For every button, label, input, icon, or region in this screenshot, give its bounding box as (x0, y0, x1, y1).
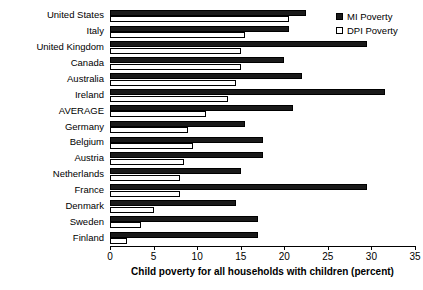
bar-mi-poverty (110, 232, 258, 238)
bar-group (110, 119, 415, 135)
bar-group (110, 183, 415, 199)
bar-dpi-poverty (110, 32, 245, 38)
category-label: Italy (0, 26, 104, 36)
bar-mi-poverty (110, 105, 293, 111)
bar-mi-poverty (110, 168, 241, 174)
bar-dpi-poverty (110, 96, 228, 102)
x-tick-mark (110, 246, 111, 250)
x-tick-mark (197, 246, 198, 250)
x-tick-label: 25 (313, 251, 343, 262)
category-label: Canada (0, 58, 104, 68)
bar-dpi-poverty (110, 222, 141, 228)
x-tick-mark (371, 246, 372, 250)
bar-group (110, 56, 415, 72)
x-tick-label: 15 (226, 251, 256, 262)
bar-group (110, 167, 415, 183)
bar-dpi-poverty (110, 127, 188, 133)
bar-group (110, 71, 415, 87)
bar-group (110, 87, 415, 103)
legend-label: MI Poverty (347, 11, 392, 22)
bar-mi-poverty (110, 152, 263, 158)
x-tick-mark (154, 246, 155, 250)
bar-dpi-poverty (110, 159, 184, 165)
x-tick-label: 30 (356, 251, 386, 262)
bar-group (110, 151, 415, 167)
bar-mi-poverty (110, 200, 236, 206)
bar-dpi-poverty (110, 207, 154, 213)
category-label: Austria (0, 153, 104, 163)
bar-dpi-poverty (110, 111, 206, 117)
category-label: Belgium (0, 137, 104, 147)
category-label: Germany (0, 122, 104, 132)
bar-mi-poverty (110, 73, 302, 79)
bar-mi-poverty (110, 57, 284, 63)
category-label: United States (0, 10, 104, 20)
bar-dpi-poverty (110, 80, 236, 86)
bar-chart: United StatesItalyUnited KingdomCanadaAu… (0, 0, 423, 290)
x-axis-title: Child poverty for all households with ch… (110, 266, 415, 277)
x-tick-mark (241, 246, 242, 250)
x-tick-mark (415, 246, 416, 250)
category-label: Sweden (0, 217, 104, 227)
bar-mi-poverty (110, 137, 263, 143)
category-label: Ireland (0, 90, 104, 100)
filled-square-icon (336, 13, 343, 20)
bar-dpi-poverty (110, 175, 180, 181)
category-label: Australia (0, 74, 104, 84)
bar-group (110, 40, 415, 56)
legend-item-mi-poverty: MI Poverty (336, 10, 422, 23)
category-label: AVERAGE (0, 106, 104, 116)
open-square-icon (336, 27, 343, 34)
bar-dpi-poverty (110, 143, 193, 149)
category-label: Netherlands (0, 169, 104, 179)
category-label: France (0, 185, 104, 195)
bar-mi-poverty (110, 10, 306, 16)
bar-group (110, 230, 415, 246)
x-tick-label: 0 (95, 251, 125, 262)
x-tick-label: 10 (182, 251, 212, 262)
bar-mi-poverty (110, 26, 289, 32)
chart-legend: MI Poverty DPI Poverty (336, 10, 422, 38)
category-axis: United StatesItalyUnited KingdomCanadaAu… (0, 8, 104, 246)
x-axis-ticks: 05101520253035 (110, 246, 415, 268)
category-label: Finland (0, 233, 104, 243)
legend-item-dpi-poverty: DPI Poverty (336, 24, 422, 37)
x-tick-mark (328, 246, 329, 250)
x-tick-label: 20 (269, 251, 299, 262)
x-tick-label: 5 (139, 251, 169, 262)
bar-mi-poverty (110, 184, 367, 190)
bar-group (110, 214, 415, 230)
bar-dpi-poverty (110, 48, 241, 54)
bar-group (110, 135, 415, 151)
bar-group (110, 198, 415, 214)
plot-area (110, 8, 415, 246)
bar-mi-poverty (110, 41, 367, 47)
x-tick-mark (284, 246, 285, 250)
bar-dpi-poverty (110, 191, 180, 197)
x-tick-label: 35 (400, 251, 423, 262)
bar-dpi-poverty (110, 238, 127, 244)
bar-mi-poverty (110, 89, 385, 95)
category-label: Denmark (0, 201, 104, 211)
category-label: United Kingdom (0, 42, 104, 52)
bar-group (110, 103, 415, 119)
bar-mi-poverty (110, 216, 258, 222)
bar-mi-poverty (110, 121, 245, 127)
bar-dpi-poverty (110, 16, 289, 22)
bar-dpi-poverty (110, 64, 241, 70)
legend-label: DPI Poverty (347, 25, 398, 36)
